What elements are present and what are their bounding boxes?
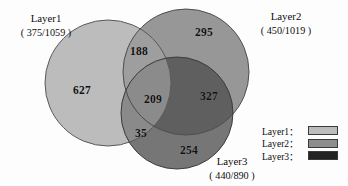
legend-item-layer3: Layer3： — [262, 150, 342, 161]
legend-item-layer1: Layer1： — [262, 125, 342, 136]
set-label-layer3-name: Layer3 — [209, 154, 254, 169]
set-label-layer1-ratio: ( 375/1059 ) — [21, 26, 71, 40]
region-count-layer1-only: 627 — [73, 84, 91, 96]
set-label-layer1: Layer1 ( 375/1059 ) — [21, 11, 71, 39]
region-count-layer2-layer3: 327 — [200, 90, 218, 102]
region-count-layer1-layer2: 188 — [130, 45, 148, 57]
legend-swatch-layer1 — [308, 126, 338, 135]
set-label-layer2: Layer2 ( 450/1019 ) — [261, 9, 311, 37]
region-count-layer1-layer3: 35 — [135, 127, 147, 139]
region-count-layer3-only: 254 — [180, 144, 198, 156]
legend-swatch-layer3 — [308, 151, 338, 160]
set-label-layer1-name: Layer1 — [21, 11, 71, 26]
set-label-layer2-ratio: ( 450/1019 ) — [261, 24, 311, 38]
set-label-layer3: Layer3 ( 440/890 ) — [209, 154, 254, 182]
venn-diagram-figure: 627 188 295 209 327 35 254 Layer1 ( 375/… — [0, 0, 348, 186]
legend-item-layer2: Layer2： — [262, 138, 342, 149]
region-count-layer2-only: 295 — [195, 26, 213, 38]
legend-swatch-layer2 — [308, 139, 338, 148]
legend: Layer1： Layer2： Layer3： — [262, 124, 342, 162]
set-label-layer3-ratio: ( 440/890 ) — [209, 169, 254, 183]
legend-label-layer3: Layer3： — [262, 149, 306, 163]
region-count-all-three: 209 — [144, 93, 162, 105]
set-label-layer2-name: Layer2 — [261, 9, 311, 24]
